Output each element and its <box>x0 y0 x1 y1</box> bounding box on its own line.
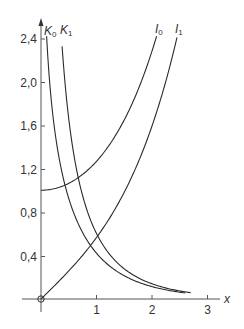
label-i0: I0 <box>155 22 163 37</box>
curve-k1 <box>62 46 191 292</box>
axes <box>22 18 220 312</box>
y-tick-labels: 0,4 0,8 1,2 1,6 2,0 2,4 <box>20 32 37 264</box>
curve-k0 <box>47 36 186 293</box>
bessel-functions-chart: 0,4 0,8 1,2 1,6 2,0 2,4 1 2 3 x K0 K1 I0… <box>0 0 244 329</box>
curve-i0 <box>41 36 157 190</box>
curves <box>41 36 191 299</box>
x-tick-label: 3 <box>204 303 211 317</box>
x-axis-label: x <box>223 292 231 306</box>
y-tick-label: 2,0 <box>20 76 37 90</box>
y-tick-label: 0,4 <box>20 250 37 264</box>
x-tick-label: 1 <box>93 303 100 317</box>
y-axis-arrow-icon <box>39 18 44 26</box>
label-k0: K0 <box>44 24 57 39</box>
y-tick-label: 2,4 <box>20 32 37 46</box>
x-tick-label: 2 <box>149 303 156 317</box>
label-k1: K1 <box>60 23 73 38</box>
y-tick-label: 1,6 <box>20 119 37 133</box>
y-tick-label: 0,8 <box>20 206 37 220</box>
x-tick-labels: 1 2 3 <box>93 303 211 317</box>
y-tick-label: 1,2 <box>20 163 37 177</box>
label-i1: I1 <box>175 22 183 37</box>
